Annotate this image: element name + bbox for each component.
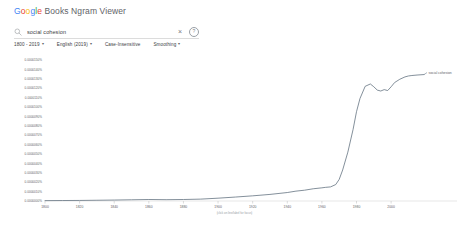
x-axis-tick-label: 1880	[180, 205, 188, 209]
y-axis-tick-label: 0.0000030%	[25, 171, 43, 175]
logo-letter-g: G	[14, 6, 21, 16]
y-axis-tick-label: 0.0000010%	[25, 190, 43, 194]
y-axis-tick-label: 0.0000060%	[25, 143, 43, 147]
x-axis-tick-label: 1980	[353, 205, 361, 209]
case-insensitive-label: Case-Insensitive	[105, 42, 141, 47]
x-axis-tick-label: 1840	[110, 205, 118, 209]
x-axis-tick-label: 1820	[76, 205, 84, 209]
data-line[interactable]	[45, 75, 424, 201]
y-axis-tick-label: 0.0000110%	[25, 96, 42, 100]
x-axis-tick-label: 1920	[249, 205, 257, 209]
chevron-down-icon: ▾	[178, 43, 180, 47]
smoothing-label: Smoothing	[153, 42, 176, 47]
smoothing-selector[interactable]: Smoothing ▾	[153, 42, 180, 47]
x-axis-tick-label: 1940	[284, 205, 292, 209]
ngram-chart[interactable]: 0.0000150%0.0000140%0.0000130%0.0000120%…	[0, 55, 461, 225]
corpus-label: English (2019)	[57, 42, 88, 47]
page-title: Google Books Ngram Viewer	[14, 6, 126, 17]
y-axis-tick-label: 0.0000140%	[25, 68, 43, 72]
chevron-down-icon: ▾	[90, 43, 92, 47]
page-title-rest: Books Ngram Viewer	[42, 6, 126, 16]
legend-leader-line	[424, 73, 427, 75]
date-range-selector[interactable]: 1800 - 2019 ▾	[14, 42, 44, 47]
search-input[interactable]	[27, 29, 176, 35]
x-axis-tick-label: 1900	[214, 205, 222, 209]
help-icon[interactable]: ?	[189, 27, 199, 37]
search-icon	[14, 28, 22, 36]
y-axis-tick-label: 0.0000130%	[25, 77, 43, 81]
x-axis-tick-label: 1860	[145, 205, 153, 209]
x-axis-tick-label: 1960	[318, 205, 326, 209]
y-axis-tick-label: 0.0000150%	[25, 58, 43, 62]
close-icon[interactable]: ×	[176, 28, 184, 36]
series-label[interactable]: social cohesion	[429, 71, 452, 75]
chart-caption: (click on line/label for focus)	[217, 211, 253, 215]
y-axis-tick-label: 0.0000050%	[25, 152, 43, 156]
case-insensitive-toggle[interactable]: Case-Insensitive	[105, 42, 141, 47]
x-axis-tick-label: 2000	[387, 205, 395, 209]
y-axis-tick-label: 0.0000020%	[25, 180, 43, 184]
page-header: Google Books Ngram Viewer	[14, 6, 126, 17]
corpus-selector[interactable]: English (2019) ▾	[57, 42, 92, 47]
y-axis-tick-label: 0.0000120%	[25, 86, 43, 90]
ngram-viewer-page: Google Books Ngram Viewer × ? 1800 - 201…	[0, 0, 461, 225]
chart-controls: 1800 - 2019 ▾ English (2019) ▾ Case-Inse…	[14, 42, 180, 47]
chevron-down-icon: ▾	[42, 43, 44, 47]
x-axis-tick-label: 1800	[41, 205, 49, 209]
y-axis-tick-label: 0.0000000%	[25, 199, 43, 203]
y-axis-tick-label: 0.0000100%	[25, 105, 43, 109]
y-axis-tick-label: 0.0000090%	[25, 115, 43, 119]
y-axis-tick-label: 0.0000080%	[25, 124, 43, 128]
search-bar[interactable]: × ?	[14, 25, 199, 39]
chart-canvas[interactable]: 0.0000150%0.0000140%0.0000130%0.0000120%…	[0, 55, 461, 225]
y-axis-tick-label: 0.0000040%	[25, 162, 43, 166]
y-axis-tick-label: 0.0000070%	[25, 133, 43, 137]
date-range-label: 1800 - 2019	[14, 42, 40, 47]
